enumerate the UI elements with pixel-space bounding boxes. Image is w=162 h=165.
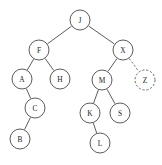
tree-node-label-k: K xyxy=(87,109,93,118)
tree-node-label-z: Z xyxy=(143,76,148,85)
tree-node-z[interactable]: Z xyxy=(135,70,155,90)
tree-node-label-m: M xyxy=(99,76,106,85)
tree-edge-m-s xyxy=(107,89,115,104)
tree-node-a[interactable]: A xyxy=(12,69,32,89)
tree-node-l[interactable]: L xyxy=(90,133,110,153)
tree-node-label-x: X xyxy=(120,46,126,55)
tree-node-label-a: A xyxy=(19,75,25,84)
tree-svg-canvas: JFXAHMZCKSBL xyxy=(0,0,162,165)
tree-node-label-l: L xyxy=(98,139,103,148)
tree-edge-x-z xyxy=(129,58,139,71)
binary-search-tree-figure: JFXAHMZCKSBL xyxy=(0,0,162,165)
tree-node-b[interactable]: B xyxy=(10,129,30,149)
tree-nodes-group: JFXAHMZCKSBL xyxy=(10,10,155,153)
tree-edge-j-f xyxy=(47,26,71,44)
tree-node-c[interactable]: C xyxy=(25,98,45,118)
tree-node-label-h: H xyxy=(57,75,63,84)
tree-edge-k-l xyxy=(93,123,96,133)
tree-node-j[interactable]: J xyxy=(70,10,90,30)
tree-node-label-b: B xyxy=(18,135,23,144)
tree-node-label-c: C xyxy=(33,104,38,113)
tree-node-label-s: S xyxy=(118,109,122,118)
tree-edge-f-h xyxy=(45,59,54,71)
tree-edge-a-c xyxy=(26,89,30,99)
tree-edge-j-x xyxy=(89,26,115,44)
tree-node-label-f: F xyxy=(37,46,41,55)
tree-node-k[interactable]: K xyxy=(80,103,100,123)
tree-edge-f-a xyxy=(27,59,33,70)
tree-node-label-j: J xyxy=(79,16,82,25)
tree-node-h[interactable]: H xyxy=(50,69,70,89)
tree-edge-c-b xyxy=(25,117,31,129)
tree-node-f[interactable]: F xyxy=(29,40,49,60)
tree-edge-m-k xyxy=(94,90,99,103)
tree-node-m[interactable]: M xyxy=(92,70,112,90)
tree-node-s[interactable]: S xyxy=(110,103,130,123)
tree-node-x[interactable]: X xyxy=(113,40,133,60)
tree-edge-x-m xyxy=(108,59,117,72)
